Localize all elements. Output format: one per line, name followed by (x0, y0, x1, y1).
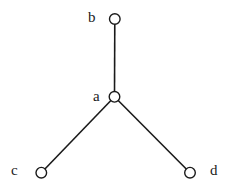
node-a (109, 92, 120, 103)
node-b (110, 14, 121, 25)
node-label-c: c (11, 162, 18, 178)
edge-a-c (41, 97, 114, 173)
node-d (185, 167, 196, 178)
node-label-d: d (210, 162, 218, 178)
node-label-b: b (88, 9, 96, 25)
node-label-a: a (93, 88, 100, 104)
tree-diagram: a b c d (0, 0, 229, 188)
node-c (36, 167, 47, 178)
edge-a-d (115, 97, 191, 173)
